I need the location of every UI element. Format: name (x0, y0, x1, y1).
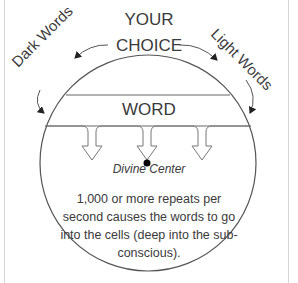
down-arrow-2 (102, 126, 157, 160)
down-arrow-1 (45, 126, 102, 160)
description-text: 1,000 or more repeats per second causes … (60, 190, 238, 262)
divine-center-label: Divine Center (0, 162, 298, 176)
word-label: WORD (0, 100, 298, 120)
down-arrow-3 (157, 126, 251, 160)
